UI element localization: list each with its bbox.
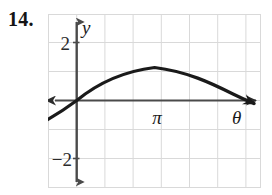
- x-axis-label: θ: [232, 107, 241, 128]
- graph-svg: y θ π 2 −2: [48, 14, 261, 188]
- y-tick-label-2: 2: [61, 33, 71, 54]
- plot-area: y θ π 2 −2: [48, 14, 261, 188]
- y-tick-label-negative-2: −2: [52, 149, 72, 170]
- x-tick-label-pi: π: [152, 107, 162, 128]
- y-axis-label: y: [80, 17, 91, 38]
- figure-container: 14.: [0, 0, 272, 195]
- exercise-number: 14.: [8, 8, 34, 31]
